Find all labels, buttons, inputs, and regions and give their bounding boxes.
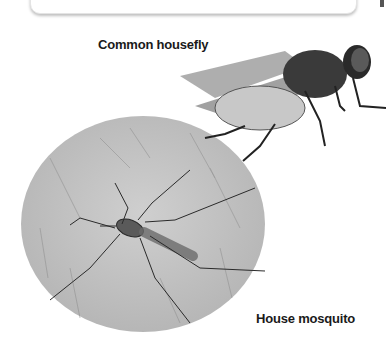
mosquito-label: House mosquito xyxy=(256,311,355,326)
page-edge-mark xyxy=(380,0,384,7)
housefly-icon xyxy=(175,36,386,164)
housefly-label: Common housefly xyxy=(98,37,208,52)
callout-box-bottom-edge xyxy=(30,0,357,14)
